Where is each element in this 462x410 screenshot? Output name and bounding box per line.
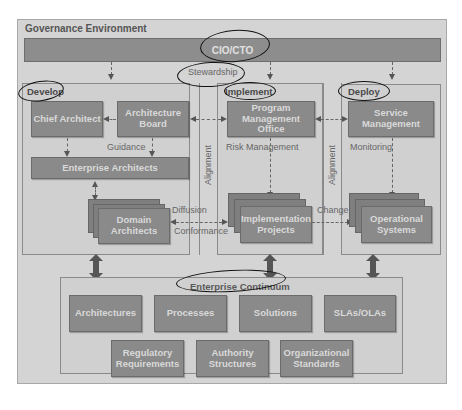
pmo-to-projects-connector bbox=[270, 138, 271, 193]
continuum-item-label: Architectures bbox=[75, 308, 136, 319]
domain-architects-label: Domain Architects bbox=[99, 215, 169, 237]
arrow-right-icon bbox=[342, 116, 348, 122]
continuum-item-label: Regulatory Requirements bbox=[112, 348, 183, 370]
continuum-item-processes: Processes bbox=[154, 295, 227, 332]
pmo-box: Program Management Office bbox=[227, 101, 315, 137]
arrow-left-icon bbox=[103, 116, 109, 122]
arrow-down-icon bbox=[389, 74, 395, 80]
chief-to-ea-connector bbox=[67, 138, 68, 152]
architecture-board-label: Architecture Board bbox=[118, 108, 188, 130]
arrow-down-icon bbox=[267, 74, 273, 80]
continuum-item-authority-structures: Authority Structures bbox=[196, 340, 269, 377]
monitoring-label: Monitoring bbox=[350, 142, 392, 152]
alignment-label-left: Alignment bbox=[203, 135, 213, 195]
enterprise-architects-label: Enterprise Architects bbox=[62, 163, 158, 174]
service-management-box: Service Management bbox=[348, 101, 434, 137]
continuum-item-architectures: Architectures bbox=[69, 295, 142, 332]
conformance-label: Conformance bbox=[174, 226, 228, 236]
service-management-label: Service Management bbox=[349, 108, 433, 130]
projects-to-operational-connector bbox=[312, 222, 348, 223]
continuum-item-label: SLAs/OLAs bbox=[334, 308, 386, 319]
implementation-projects-label: Implementation Projects bbox=[241, 214, 311, 236]
continuum-item-label: Organizational Standards bbox=[281, 348, 352, 370]
operational-systems-label: Operational Systems bbox=[362, 214, 431, 236]
architecture-board-box: Architecture Board bbox=[117, 101, 189, 137]
ink-circle-deploy bbox=[338, 81, 390, 101]
pmo-label: Program Management Office bbox=[228, 103, 314, 136]
continuum-item-solutions: Solutions bbox=[239, 295, 312, 332]
continuum-item-organizational-standards: Organizational Standards bbox=[280, 340, 353, 377]
continuum-item-slas-olas: SLAs/OLAs bbox=[324, 295, 396, 332]
change-label: Change bbox=[317, 205, 349, 215]
arrow-right-icon bbox=[221, 116, 227, 122]
governance-title: Governance Environment bbox=[25, 23, 147, 34]
continuum-item-regulatory-requirements: Regulatory Requirements bbox=[111, 340, 184, 377]
domain-to-implementation-connector bbox=[176, 222, 222, 223]
guidance-label: Guidance bbox=[107, 142, 146, 152]
diffusion-label: Diffusion bbox=[172, 205, 207, 215]
arrow-down-icon bbox=[108, 74, 114, 80]
service-to-operational-connector bbox=[392, 138, 393, 193]
domain-architects-box: Domain Architects bbox=[98, 208, 170, 244]
chief-architect-box: Chief Architect bbox=[31, 101, 103, 137]
board-to-ea-connector bbox=[152, 138, 153, 152]
continuum-item-label: Authority Structures bbox=[197, 348, 268, 370]
board-to-pmo-connector bbox=[196, 119, 221, 120]
continuum-item-label: Processes bbox=[167, 308, 215, 319]
operational-systems-box: Operational Systems bbox=[361, 206, 432, 243]
enterprise-architects-box: Enterprise Architects bbox=[31, 157, 189, 179]
alignment-label-right: Alignment bbox=[327, 135, 337, 195]
implementation-projects-box: Implementation Projects bbox=[240, 206, 312, 243]
pmo-to-service-connector bbox=[321, 119, 343, 120]
ink-circle-implement bbox=[224, 82, 276, 100]
chief-architect-label: Chief Architect bbox=[33, 114, 100, 125]
risk-management-label: Risk Management bbox=[226, 142, 299, 152]
continuum-item-label: Solutions bbox=[254, 308, 297, 319]
